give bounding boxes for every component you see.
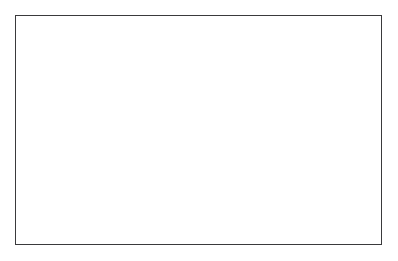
figure-border-frame <box>15 15 382 245</box>
dna-replication-figure: TACCTACGGACA ACATCA ATGTA GTCATGAAGCAGT … <box>0 0 398 261</box>
